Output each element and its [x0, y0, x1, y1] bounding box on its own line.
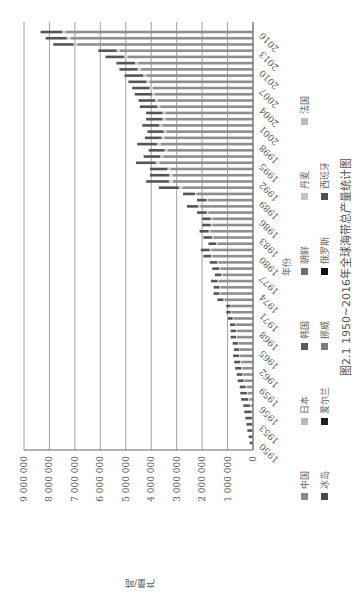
- bar-segment-japan: [223, 298, 224, 301]
- bar-segment-others: [246, 423, 252, 426]
- bar-2001: [142, 124, 253, 127]
- x-axis-title: 年份: [281, 258, 292, 276]
- bar-2014: [53, 43, 253, 46]
- bar-segment-japan: [211, 224, 213, 227]
- bar-segment-others: [215, 274, 221, 277]
- bar-2008: [128, 81, 253, 84]
- x-tick-label: 1959: [257, 385, 280, 408]
- bar-segment-others: [244, 411, 251, 414]
- bar-segment-others: [53, 43, 73, 46]
- bar-1958: [240, 392, 253, 395]
- bar-segment-china: [167, 149, 253, 152]
- bar-segment-others: [116, 62, 135, 65]
- x-tick-label: 2010: [257, 68, 280, 91]
- bar-segment-japan: [239, 355, 240, 358]
- bar-1994: [150, 168, 253, 171]
- bar-segment-japan: [152, 93, 155, 96]
- bar-segment-japan: [219, 267, 220, 270]
- bar-segment-others: [197, 211, 207, 214]
- bar-segment-china: [243, 373, 253, 376]
- bar-1982: [208, 242, 253, 245]
- stacked-bars: [41, 31, 253, 445]
- bar-segment-others: [149, 149, 165, 152]
- bar-segment-others: [46, 37, 67, 40]
- bar-1969: [230, 323, 253, 326]
- bar-segment-others: [105, 56, 124, 59]
- bar-segment-china: [164, 137, 253, 140]
- bar-segment-others: [187, 205, 198, 208]
- bar-1955: [244, 411, 253, 414]
- x-axis-ticks: 1950195319561959196219651968197119741977…: [257, 30, 280, 464]
- bar-segment-china: [150, 81, 253, 84]
- bar-segment-japan: [124, 56, 127, 59]
- bar-segment-others: [145, 137, 162, 140]
- bar-segment-others: [137, 143, 157, 146]
- legend-swatch: [301, 418, 308, 425]
- bar-segment-japan: [161, 137, 164, 140]
- bar-segment-china: [237, 336, 253, 339]
- bar-segment-china: [171, 168, 253, 171]
- x-tick-label: 2004: [257, 105, 280, 128]
- legend-swatch: [321, 268, 328, 275]
- bar-segment-japan: [74, 43, 78, 46]
- bar-segment-china: [160, 105, 253, 108]
- bar-segment-others: [208, 242, 216, 245]
- x-tick-label: 1992: [257, 180, 280, 203]
- bar-1954: [245, 417, 253, 420]
- bar-1952: [247, 429, 253, 432]
- bar-segment-japan: [156, 161, 160, 164]
- bar-1961: [237, 373, 253, 376]
- bar-segment-japan: [160, 155, 163, 158]
- legend-item: 俄罗斯: [319, 237, 330, 275]
- bar-segment-others: [146, 118, 162, 121]
- bar-segment-others: [146, 180, 169, 183]
- bar-segment-others: [233, 342, 238, 345]
- bar-1970: [228, 317, 253, 320]
- legend-label: 爱尔兰: [319, 387, 330, 414]
- bar-segment-others: [200, 230, 209, 233]
- bar-1983: [203, 236, 253, 239]
- bar-segment-china: [246, 386, 253, 389]
- bar-segment-others: [119, 68, 137, 71]
- bar-segment-others: [211, 280, 217, 283]
- bar-1991: [159, 186, 253, 189]
- bar-2013: [98, 49, 253, 52]
- legend-item: 朝鲜: [299, 246, 310, 275]
- bar-segment-japan: [179, 186, 183, 189]
- bar-segment-others: [135, 93, 152, 96]
- bar-1957: [241, 398, 253, 401]
- bar-segment-others: [240, 392, 246, 395]
- bar-segment-others: [249, 435, 253, 438]
- bar-segment-china: [138, 62, 253, 65]
- bar-2016: [41, 31, 253, 34]
- bar-segment-china: [239, 342, 253, 345]
- bar-1967: [231, 336, 253, 339]
- bar-1993: [150, 174, 253, 177]
- bar-segment-others: [228, 317, 233, 320]
- bar-segment-others: [214, 292, 220, 295]
- bar-2003: [146, 112, 253, 115]
- bar-segment-china: [141, 68, 253, 71]
- legend-swatch: [321, 418, 328, 425]
- legend-swatch: [301, 193, 308, 200]
- bar-1962: [235, 367, 253, 370]
- bar-segment-japan: [169, 180, 173, 183]
- bar-segment-china: [240, 355, 253, 358]
- bar-segment-japan: [217, 261, 218, 264]
- chart-page: 01 000 0002 000 0003 000 0004 000 0005 0…: [0, 0, 360, 612]
- legend: 中国日本韩国朝鲜丹麦法国冰岛爱尔兰挪威俄罗斯西班牙: [299, 96, 330, 500]
- y-tick-label: 1 000 000: [223, 456, 233, 502]
- bar-segment-others: [240, 386, 246, 389]
- bar-segment-others: [142, 124, 159, 127]
- bar-segment-japan: [138, 68, 141, 71]
- bar-segment-others: [197, 199, 207, 202]
- figure-caption: 图2.1 1950~2016年全球海带总产量统计图: [339, 158, 353, 376]
- bar-segment-others: [201, 249, 210, 252]
- x-tick-label: 2001: [257, 124, 280, 147]
- bar-segment-others: [233, 355, 239, 358]
- legend-item: 日本: [299, 396, 310, 425]
- bar-segment-china: [208, 211, 253, 214]
- bar-1986: [202, 218, 253, 221]
- bar-segment-china: [128, 56, 253, 59]
- bar-segment-japan: [143, 74, 146, 77]
